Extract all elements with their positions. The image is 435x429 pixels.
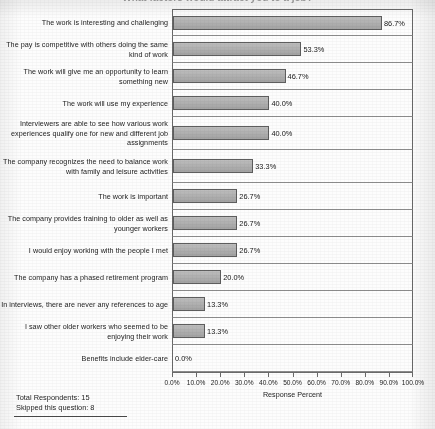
bar [173, 96, 269, 110]
bar [173, 16, 382, 30]
x-tick [172, 373, 173, 377]
bar-value-label: 40.0% [269, 129, 292, 138]
x-axis-tick-labels: 0.0%10.0%20.0%30.0%40.0%50.0%60.0%70.0%8… [172, 378, 413, 389]
bar-track: 26.7% [172, 183, 413, 210]
x-tick-label: 100.0% [402, 379, 424, 386]
x-tick-label: 50.0% [283, 379, 302, 386]
bar [173, 270, 221, 284]
x-tick-label: 30.0% [235, 379, 254, 386]
bar-track: 26.7% [172, 210, 413, 237]
chart-row: The work will use my experience40.0% [0, 90, 435, 117]
bar [173, 189, 237, 203]
bar [173, 159, 253, 173]
footer-stats: Total Respondents: 15 Skipped this quest… [16, 393, 94, 413]
bar-value-label: 33.3% [253, 162, 276, 171]
chart-row: The pay is competitive with others doing… [0, 36, 435, 63]
chart-row: Interviewers are able to see how various… [0, 117, 435, 150]
bar [173, 216, 237, 230]
chart-row: The company has a phased retirement prog… [0, 264, 435, 291]
chart-row: The company recognizes the need to balan… [0, 150, 435, 183]
x-axis-title: Response Percent [172, 390, 413, 399]
x-tick [389, 373, 390, 377]
chart-rows: The work is interesting and challenging8… [0, 9, 435, 372]
category-label: The company provides training to older a… [0, 210, 172, 237]
x-tick [365, 373, 366, 377]
bar-track: 13.3% [172, 291, 413, 318]
bar-track: 26.7% [172, 237, 413, 264]
footer-divider [14, 416, 127, 417]
bar-value-label: 26.7% [237, 246, 260, 255]
bar-track: 86.7% [172, 9, 413, 36]
bar [173, 126, 269, 140]
bar-track: 20.0% [172, 264, 413, 291]
x-tick-label: 40.0% [259, 379, 278, 386]
category-label: I saw other older workers who seemed to … [0, 318, 172, 345]
chart-row: The company provides training to older a… [0, 210, 435, 237]
bar-track: 40.0% [172, 117, 413, 150]
bar-track: 46.7% [172, 63, 413, 90]
category-label: Interviewers are able to see how various… [0, 117, 172, 150]
x-tick [220, 373, 221, 377]
category-label: The work will use my experience [0, 90, 172, 117]
bar [173, 297, 205, 311]
category-label: I would enjoy working with the people I … [0, 237, 172, 264]
bar-value-label: 40.0% [269, 99, 292, 108]
x-tick [268, 373, 269, 377]
x-tick-label: 20.0% [211, 379, 230, 386]
x-tick [412, 373, 413, 377]
chart-row: In interviews, there are never any refer… [0, 291, 435, 318]
bar-value-label: 13.3% [205, 327, 228, 336]
category-label: The work will give me an opportunity to … [0, 63, 172, 90]
x-tick-label: 0.0% [164, 379, 179, 386]
chart-row: I would enjoy working with the people I … [0, 237, 435, 264]
bar-value-label: 53.3% [301, 45, 324, 54]
x-tick-label: 60.0% [307, 379, 326, 386]
chart-row: The work is important26.7% [0, 183, 435, 210]
category-label: The company has a phased retirement prog… [0, 264, 172, 291]
bar [173, 69, 286, 83]
skipped-question: Skipped this question: 8 [16, 403, 94, 413]
chart-row: Benefits include elder-care0.0% [0, 345, 435, 372]
bar-track: 40.0% [172, 90, 413, 117]
bar-track: 33.3% [172, 150, 413, 183]
bar-value-label: 26.7% [237, 219, 260, 228]
bar [173, 324, 205, 338]
total-respondents: Total Respondents: 15 [16, 393, 94, 403]
x-tick-label: 70.0% [331, 379, 350, 386]
scanned-page: What factors would attract you to a job?… [0, 0, 435, 429]
x-tick-label: 80.0% [355, 379, 374, 386]
category-label: In interviews, there are never any refer… [0, 291, 172, 318]
x-tick [341, 373, 342, 377]
x-tick [196, 373, 197, 377]
x-tick-label: 90.0% [380, 379, 399, 386]
horizontal-bar-chart: The work is interesting and challenging8… [0, 9, 435, 399]
bar-value-label: 0.0% [173, 354, 192, 363]
x-tick [293, 373, 294, 377]
bar-track: 0.0% [172, 345, 413, 372]
chart-title-text: What factors would attract you to a job? [0, 0, 435, 3]
category-label: The work is important [0, 183, 172, 210]
bar-value-label: 20.0% [221, 273, 244, 282]
category-label: The pay is competitive with others doing… [0, 36, 172, 63]
category-label: The company recognizes the need to balan… [0, 150, 172, 183]
chart-row: The work will give me an opportunity to … [0, 63, 435, 90]
chart-row: The work is interesting and challenging8… [0, 9, 435, 36]
bar [173, 42, 301, 56]
bar-value-label: 46.7% [286, 72, 309, 81]
x-tick [317, 373, 318, 377]
category-label: Benefits include elder-care [0, 345, 172, 372]
chart-title-clipped: What factors would attract you to a job? [0, 0, 435, 8]
bar-value-label: 26.7% [237, 192, 260, 201]
x-tick-label: 10.0% [187, 379, 206, 386]
category-label: The work is interesting and challenging [0, 9, 172, 36]
bar [173, 243, 237, 257]
bar-value-label: 86.7% [382, 18, 405, 27]
chart-row: I saw other older workers who seemed to … [0, 318, 435, 345]
bar-track: 53.3% [172, 36, 413, 63]
bar-value-label: 13.3% [205, 300, 228, 309]
x-tick [244, 373, 245, 377]
bar-track: 13.3% [172, 318, 413, 345]
